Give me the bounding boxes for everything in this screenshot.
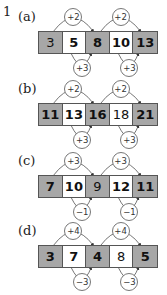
- shaded-cell: 4: [86, 246, 110, 267]
- top-step-bubble: +4: [112, 222, 130, 240]
- plain-cell: 18: [110, 104, 134, 125]
- shaded-cell: 13: [133, 32, 157, 53]
- number-strip: 37485: [38, 245, 158, 268]
- sequence-part-d: (d)37485+4+4−3−3: [0, 218, 167, 290]
- shaded-cell: 11: [39, 104, 63, 125]
- top-step-bubble: +2: [112, 80, 130, 98]
- shaded-cell: 21: [133, 104, 157, 125]
- sequence-part-b: (b)1113161821+2+2+3+3: [0, 76, 167, 148]
- shaded-cell: 5: [133, 246, 157, 267]
- number-strip: 71091211: [38, 175, 158, 198]
- shaded-cell: 8: [86, 32, 110, 53]
- shaded-cell: 3: [39, 246, 63, 267]
- shaded-cell: 11: [133, 176, 157, 197]
- number-strip: 3581013: [38, 31, 158, 54]
- plain-cell: 10: [63, 176, 87, 197]
- shaded-cell: 16: [86, 104, 110, 125]
- shaded-cell: 9: [86, 176, 110, 197]
- plain-cell: 12: [110, 176, 134, 197]
- plain-cell: 5: [63, 32, 87, 53]
- shaded-cell: 7: [39, 176, 63, 197]
- plain-cell: 7: [63, 246, 87, 267]
- top-step-bubble: +3: [112, 152, 130, 170]
- sequence-part-a: (a)3581013+2+2+3+3: [0, 4, 167, 76]
- plain-cell: 8: [110, 246, 134, 267]
- shaded-cell: 3: [39, 32, 63, 53]
- top-step-bubble: +2: [112, 8, 130, 26]
- plain-cell: 13: [63, 104, 87, 125]
- number-strip: 1113161821: [38, 103, 158, 126]
- sequence-part-c: (c)71091211+3+3−1−1: [0, 148, 167, 220]
- plain-cell: 10: [110, 32, 134, 53]
